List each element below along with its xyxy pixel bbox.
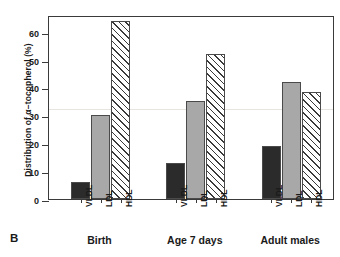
x-axis-group-label: Birth xyxy=(87,234,112,246)
y-tick-label: 30 xyxy=(29,112,39,122)
y-tick-label: 60 xyxy=(29,29,39,39)
x-tick-mark xyxy=(311,199,312,203)
x-tick-mark xyxy=(81,199,82,203)
x-axis-series-label: LDL xyxy=(104,163,114,207)
y-tick-mark xyxy=(42,34,49,35)
y-tick-label: 50 xyxy=(29,57,39,67)
x-axis-series-label: LDL xyxy=(294,163,304,207)
panel-letter: B xyxy=(10,232,18,244)
x-tick-mark xyxy=(121,199,122,203)
x-tick-mark xyxy=(196,199,197,203)
x-axis-series-label: VLDL xyxy=(179,163,189,207)
y-tick-mark xyxy=(42,173,49,174)
y-tick-mark xyxy=(42,145,49,146)
x-axis-series-label: VLDL xyxy=(274,163,284,207)
x-axis-series-label: VLDL xyxy=(84,163,94,207)
x-tick-mark xyxy=(216,199,217,203)
x-tick-mark xyxy=(271,199,272,203)
x-tick-mark xyxy=(291,199,292,203)
figure-panel-b: Distribution of α−tocopherol (%) 0102030… xyxy=(0,0,340,257)
x-axis-group-label: Age 7 days xyxy=(167,234,222,246)
y-tick-mark xyxy=(42,117,49,118)
y-tick-label: 20 xyxy=(29,140,39,150)
y-tick-mark xyxy=(42,89,49,90)
y-tick-mark xyxy=(42,201,49,202)
y-tick-label: 0 xyxy=(34,196,39,206)
x-axis-series-label: LDL xyxy=(199,163,209,207)
x-tick-mark xyxy=(101,199,102,203)
y-tick-label: 10 xyxy=(29,168,39,178)
x-axis-group-label: Adult males xyxy=(260,234,320,246)
x-axis-series-label: HDL xyxy=(314,163,324,207)
x-axis-series-label: HDL xyxy=(219,163,229,207)
x-axis-series-label: HDL xyxy=(124,163,134,207)
y-tick-label: 40 xyxy=(29,84,39,94)
x-tick-mark xyxy=(176,199,177,203)
y-tick-mark xyxy=(42,62,49,63)
